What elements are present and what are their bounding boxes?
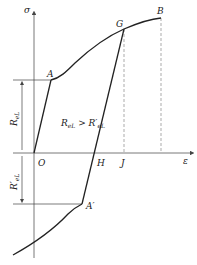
relation-label: ReL > R′eL [60,118,105,129]
origin-label: O [38,158,46,168]
sigma-label: σ [24,5,31,15]
reL-dimension-label: ReL [9,112,20,127]
reverse-curve [13,204,82,255]
point-a-label: A [46,69,54,79]
plastic-curve-agb [51,18,161,80]
point-h-label: H [96,158,105,168]
point-j-label: J [119,158,126,168]
stress-strain-diagram: σ ε O A G B H J A′ ReL R′eL ReL > R′eL [0,0,197,265]
epsilon-label: ε [183,156,188,166]
point-g-label: G [116,19,123,29]
reL-prime-dimension-label: R′eL [9,174,20,191]
unload-line-g-a-prime [82,29,124,204]
point-a-prime-label: A′ [85,201,95,211]
point-b-label: B [156,6,164,16]
elastic-line-oa [34,80,51,153]
